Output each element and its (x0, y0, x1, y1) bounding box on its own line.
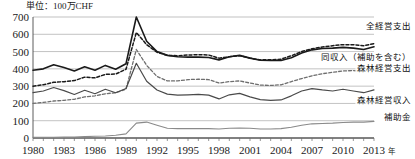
y-axis-tick-label: 0 (24, 132, 30, 144)
x-axis-tick-label: 1992 (146, 144, 168, 156)
series-label-4: 補助金 (384, 112, 411, 122)
series-label-0: 全経営支出 (366, 21, 411, 31)
y-axis-tick-label: 400 (13, 63, 30, 75)
y-axis-tick-label: 500 (13, 46, 30, 58)
x-axis-tick-label: 1980 (22, 144, 45, 156)
line-chart: 0100200300400500600700198019831986198919… (0, 0, 415, 159)
x-axis-tick-label: 2013 (363, 144, 386, 156)
x-axis-tick-label: 2007 (301, 144, 324, 156)
x-axis-tick-label: 2001 (239, 144, 261, 156)
x-axis-tick-label: 1983 (53, 144, 76, 156)
x-axis-tick-label: 1986 (84, 144, 107, 156)
series-label-1: 同収入（補助を含む） (321, 52, 411, 62)
chart-container: 単位：100万CHF 01002003004005006007001980198… (0, 0, 415, 159)
y-axis-tick-label: 600 (13, 28, 30, 40)
x-axis-tick-label: 2004 (270, 144, 293, 156)
y-axis-tick-label: 300 (13, 80, 30, 92)
series-label-2: 森林経営支出 (357, 63, 411, 73)
x-axis-tick-label: 1989 (115, 144, 138, 156)
y-axis-tick-label: 700 (13, 11, 30, 23)
x-axis-tick-label: 1998 (208, 144, 231, 156)
series-label-3: 森林経営収入 (357, 95, 411, 105)
x-axis-tick-label: 1995 (177, 144, 200, 156)
series-line-4 (33, 121, 374, 137)
x-axis-tick-label: 2010 (332, 144, 355, 156)
y-axis-tick-label: 100 (13, 115, 30, 127)
y-axis-tick-label: 200 (13, 97, 30, 109)
x-axis-unit-label: 年 (388, 146, 396, 156)
